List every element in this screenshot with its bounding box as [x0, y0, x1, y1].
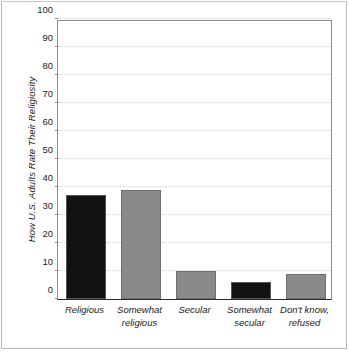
y-axis-tick-label: 0	[48, 283, 53, 294]
bar	[121, 190, 161, 299]
plot-area: 0102030405060708090100	[57, 20, 332, 300]
y-axis-title: How U.S. Adults Rate Their Religiosity	[26, 35, 37, 285]
y-axis-tick-label: 60	[42, 115, 53, 126]
x-axis-category-label: Religious	[57, 304, 112, 317]
gridline	[58, 18, 331, 19]
y-axis-tick-label: 70	[42, 87, 53, 98]
y-axis-tick-label: 50	[42, 143, 53, 154]
chart-page: How U.S. Adults Rate Their Religiosity 0…	[0, 0, 349, 354]
y-axis-tick-label: 10	[42, 255, 53, 266]
x-axis-category-label: Don't know,refused	[277, 304, 332, 329]
bar	[176, 271, 216, 299]
x-axis-label-line: secular	[234, 317, 265, 328]
x-axis-category-labels: ReligiousSomewhatreligiousSecularSomewha…	[57, 304, 332, 348]
x-axis-category-label: Somewhatreligious	[112, 304, 167, 329]
y-axis-tick-label: 90	[42, 31, 53, 42]
y-axis-tick-label: 20	[42, 227, 53, 238]
bar	[286, 274, 326, 299]
y-axis-tick-mark	[55, 18, 58, 19]
y-axis-tick-label: 100	[37, 3, 53, 14]
x-axis-category-label: Somewhatsecular	[222, 304, 277, 329]
x-axis-label-line: Somewhat	[117, 304, 162, 315]
x-axis-label-line: religious	[122, 317, 157, 328]
y-axis-tick-label: 30	[42, 199, 53, 210]
x-axis-label-line: refused	[289, 317, 321, 328]
bar	[231, 282, 271, 299]
x-axis-category-label: Secular	[167, 304, 222, 317]
x-axis-label-line: Secular	[178, 304, 210, 315]
bar-series	[58, 21, 331, 299]
x-axis-label-line: Religious	[65, 304, 104, 315]
y-axis-tick-label: 80	[42, 59, 53, 70]
x-axis-label-line: Somewhat	[227, 304, 272, 315]
x-axis-label-line: Don't know,	[280, 304, 329, 315]
bar	[66, 195, 106, 299]
y-axis-tick-label: 40	[42, 171, 53, 182]
